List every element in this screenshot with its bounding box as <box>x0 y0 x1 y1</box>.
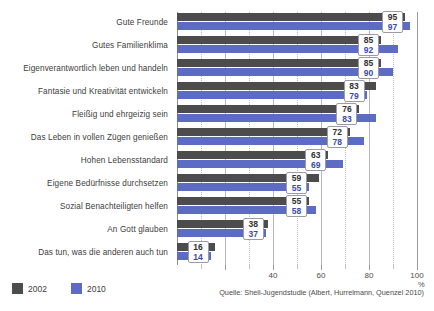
x-tick-30 <box>249 265 250 269</box>
value-callout: 8379 <box>344 80 365 102</box>
value-callout: 5558 <box>286 195 307 217</box>
value-2002: 85 <box>359 35 378 45</box>
legend-item-2010[interactable]: 2010 <box>71 283 106 294</box>
category-label: Hohen Lebensstandard <box>0 156 168 166</box>
x-tick-10 <box>201 265 202 269</box>
x-tick-90 <box>393 265 394 269</box>
value-callout: 9597 <box>382 11 403 33</box>
legend-label-2010: 2010 <box>87 284 106 294</box>
category-label: Das tun, was die anderen auch tun <box>0 248 168 258</box>
value-2002: 38 <box>244 219 263 229</box>
value-2002: 83 <box>345 81 364 91</box>
bar-2002[interactable] <box>177 105 359 113</box>
bar-row <box>177 150 417 173</box>
value-callout: 8590 <box>358 57 379 79</box>
value-callout: 7683 <box>336 103 357 125</box>
x-tick-label: 100 <box>402 271 432 280</box>
value-2010: 69 <box>306 160 325 170</box>
category-label: Sozial Benachteiligten helfen <box>0 202 168 212</box>
x-tick-label: 40 <box>258 271 288 280</box>
plot-area <box>177 12 417 265</box>
bar-2002[interactable] <box>177 59 381 67</box>
category-label: Gutes Familienklima <box>0 41 168 51</box>
bar-2002[interactable] <box>177 128 350 136</box>
value-2010: 97 <box>383 22 402 32</box>
value-2010: 37 <box>244 229 263 239</box>
value-2002: 76 <box>337 104 356 114</box>
source-note: Quelle: Shell-Jugendstudie (Albert, Hurr… <box>219 288 424 297</box>
bar-row <box>177 242 417 265</box>
value-callout: 5955 <box>286 172 307 194</box>
value-2010: 14 <box>189 252 208 262</box>
bar-row <box>177 127 417 150</box>
category-label: Das Leben in vollen Zügen genießen <box>0 133 168 143</box>
value-2010: 83 <box>337 114 356 124</box>
category-label: Gute Freunde <box>0 18 168 28</box>
bar-chart: Gute FreundeGutes FamilienklimaEigenvera… <box>0 0 434 311</box>
bar-2002[interactable] <box>177 36 381 44</box>
bar-row <box>177 35 417 58</box>
category-label: Fleißig und ehrgeizig sein <box>0 110 168 120</box>
value-2002: 85 <box>359 58 378 68</box>
x-tick-20 <box>225 265 226 270</box>
value-2002: 55 <box>287 196 306 206</box>
bar-row <box>177 81 417 104</box>
x-tick-60 <box>321 265 322 270</box>
bar-2002[interactable] <box>177 13 405 21</box>
x-tick-100 <box>417 265 418 270</box>
value-2010: 78 <box>328 137 347 147</box>
bar-2010[interactable] <box>177 91 367 99</box>
value-callout: 8592 <box>358 34 379 56</box>
legend-swatch-2002 <box>12 283 23 294</box>
value-callout: 3837 <box>243 218 264 240</box>
gridline-100 <box>417 12 418 265</box>
value-2002: 63 <box>306 150 325 160</box>
x-tick-40 <box>273 265 274 270</box>
value-2002: 72 <box>328 127 347 137</box>
bar-row <box>177 219 417 242</box>
bar-2010[interactable] <box>177 22 410 30</box>
bar-row <box>177 58 417 81</box>
x-tick-label: 60 <box>306 271 336 280</box>
value-callout: 7278 <box>327 126 348 148</box>
legend-swatch-2010 <box>71 283 82 294</box>
bar-row <box>177 104 417 127</box>
x-tick-80 <box>369 265 370 270</box>
legend-item-2002[interactable]: 2002 <box>12 283 47 294</box>
value-2010: 90 <box>359 68 378 78</box>
bar-row <box>177 12 417 35</box>
category-label: Eigenverantwortlich leben und handeln <box>0 64 168 74</box>
category-label: Eigene Bedürfnisse durchsetzen <box>0 179 168 189</box>
category-label: Fantasie und Kreativität entwickeln <box>0 87 168 97</box>
value-2002: 59 <box>287 173 306 183</box>
value-2010: 79 <box>345 91 364 101</box>
x-tick-50 <box>297 265 298 269</box>
value-2010: 55 <box>287 183 306 193</box>
value-2010: 92 <box>359 45 378 55</box>
chart-legend: 2002 2010 <box>12 283 124 294</box>
legend-label-2002: 2002 <box>28 284 47 294</box>
x-tick-70 <box>345 265 346 269</box>
value-2010: 58 <box>287 206 306 216</box>
value-2002: 16 <box>189 242 208 252</box>
value-2002: 95 <box>383 12 402 22</box>
category-label: An Gott glauben <box>0 225 168 235</box>
x-tick-label: 80 <box>354 271 384 280</box>
value-callout: 1614 <box>188 241 209 263</box>
value-callout: 6369 <box>305 149 326 171</box>
